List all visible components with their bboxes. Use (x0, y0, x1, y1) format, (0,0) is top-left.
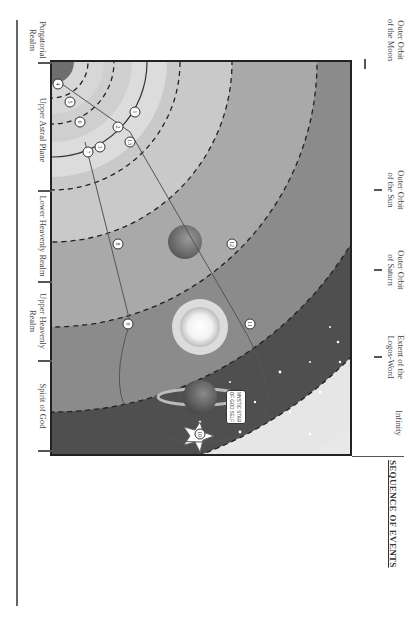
realm-upper-astral-plane: Upper Astral Plane (38, 70, 48, 190)
svg-text:7: 7 (85, 151, 91, 154)
event-item (318, 30, 388, 45)
svg-text:1: 1 (132, 111, 138, 114)
label-line: Realm (28, 20, 38, 60)
event-item (318, 90, 388, 116)
event-item (318, 183, 388, 209)
svg-text:2: 2 (115, 126, 121, 129)
svg-text:6: 6 (77, 121, 83, 124)
event-item (318, 224, 388, 250)
svg-text:4: 4 (55, 83, 61, 86)
mystic-star-label: MYSTIC STAR OF GOD SELF (226, 390, 246, 424)
event-item (318, 157, 388, 183)
svg-text:5: 5 (67, 101, 73, 104)
event-item (318, 75, 388, 90)
label-purgatorial-realm: Purgatorial Realm (28, 20, 48, 60)
event-item (318, 302, 388, 328)
sun (172, 299, 228, 355)
event-item (318, 116, 388, 131)
event-item (318, 276, 388, 302)
svg-text:13: 13 (127, 139, 133, 145)
events-list (318, 30, 388, 430)
event-item (318, 250, 388, 276)
star-label-line: MYSTIC STAR (235, 391, 242, 423)
earth-planet (168, 225, 202, 259)
event-item (318, 209, 388, 224)
svg-text:3: 3 (97, 146, 103, 149)
event-item (318, 60, 388, 75)
realm-spirit-of-god: Spirit of God (38, 362, 48, 450)
svg-text:10: 10 (197, 431, 203, 437)
events-title: SEQUENCE OF EVENTS (388, 460, 398, 568)
realm-lower-heavenly: Lower Heavenly Realm (38, 192, 48, 280)
cosmic-diagram: 1 2 3 4 5 6 7 8 9 10 11 12 13 MYSTIC STA… (50, 60, 352, 456)
svg-text:9: 9 (125, 323, 131, 326)
event-item (318, 131, 388, 157)
star-label-line: OF GOD SELF (228, 391, 235, 423)
realm-separator (38, 62, 52, 64)
events-rotated-block (318, 0, 410, 430)
svg-text:11: 11 (247, 321, 253, 327)
diagram-svg: 1 2 3 4 5 6 7 8 9 10 11 12 13 (52, 62, 350, 454)
svg-text:12: 12 (229, 241, 235, 247)
label-line: Purgatorial (38, 20, 48, 60)
realm-upper-heavenly: Upper Heavenly Realm (28, 283, 48, 359)
svg-text:8: 8 (115, 243, 121, 246)
events-divider (352, 456, 404, 457)
event-item (318, 45, 388, 60)
left-labels-column (0, 440, 60, 590)
